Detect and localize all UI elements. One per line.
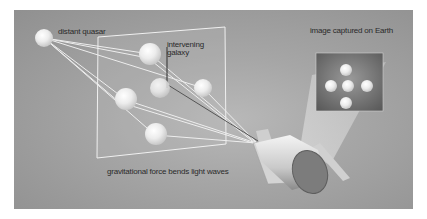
lensed-image-right-icon <box>194 79 212 97</box>
gravitational-force-label: gravitational force bends light waves <box>107 167 229 176</box>
earth-image-inset <box>316 53 383 111</box>
lensed-image-top-icon <box>139 43 161 65</box>
image-captured-label: image captured on Earth <box>310 26 393 35</box>
distant-quasar-icon <box>35 29 53 47</box>
lensed-image-left-icon <box>115 88 137 110</box>
lensed-image-bottom-icon <box>145 123 167 145</box>
intervening-galaxy-label-line2: galaxy <box>167 48 189 57</box>
intervening-galaxy-icon <box>150 78 170 98</box>
distant-quasar-label: distant quasar <box>58 27 105 36</box>
